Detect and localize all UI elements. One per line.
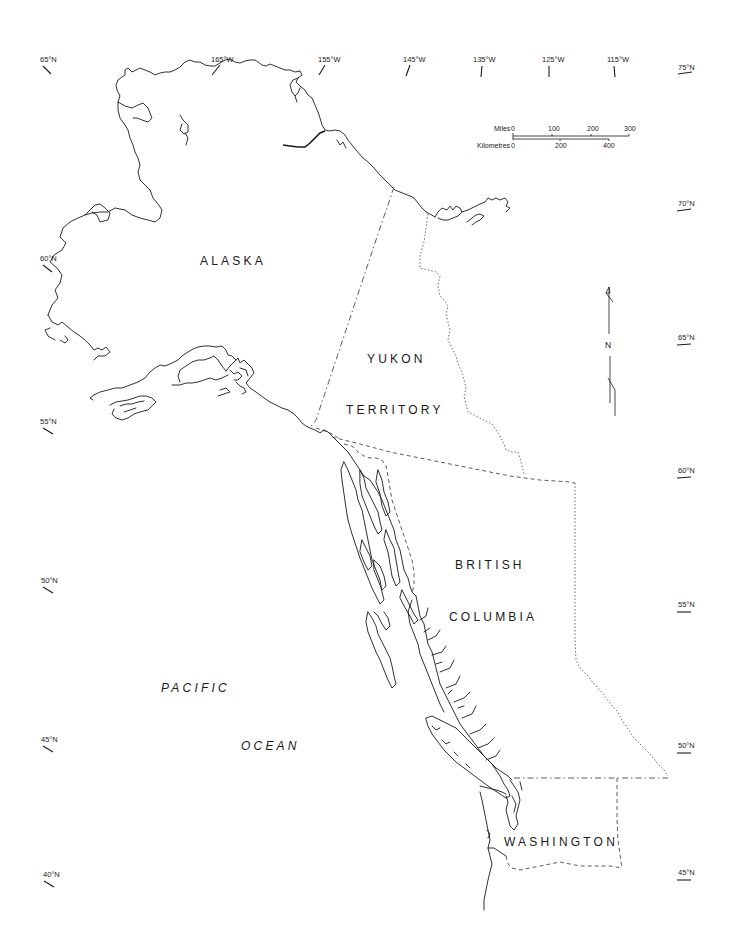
lon-tick: [406, 65, 410, 76]
label-yukon: YUKON: [367, 352, 426, 366]
north-arrow-shaft-bottom: [608, 356, 615, 416]
lat-tick: [43, 587, 53, 593]
border-panhandle: [316, 428, 414, 594]
svg-text:135°W: 135°W: [473, 55, 497, 64]
lat-right-45n: 45°N: [677, 868, 695, 880]
svg-text:145°W: 145°W: [403, 55, 427, 64]
border-60n: [332, 437, 575, 483]
lat-tick: [677, 344, 691, 345]
lat-tick: [43, 265, 52, 272]
lon-tick: [212, 65, 220, 75]
lat-right-55n: 55°N: [677, 600, 695, 612]
latitude-ticks-left: 65°N 60°N 55°N 50°N 45°N 40°N: [40, 55, 60, 887]
lon-115w: 115°W: [607, 55, 630, 77]
coastline-alaska-north: [48, 59, 510, 315]
lat-tick: [44, 881, 54, 887]
region-labels: ALASKA YUKON TERRITORY BRITISH COLUMBIA …: [200, 254, 618, 849]
svg-text:50°N: 50°N: [678, 741, 695, 750]
border-alaska-yukon: [310, 187, 394, 428]
label-territory: TERRITORY: [346, 403, 444, 417]
lon-155w: 155°W: [318, 55, 342, 75]
scale-bar-lines: [513, 133, 629, 141]
coastline-alaska-south: [90, 346, 324, 433]
lat-right-50n: 50°N: [677, 741, 695, 753]
border-yukon-nwt: [420, 214, 524, 474]
svg-text:55°N: 55°N: [678, 600, 695, 609]
map-canvas: 165°W 155°W 145°W 135°W 125°W 115°W 65°N: [0, 0, 732, 952]
svg-text:40°N: 40°N: [43, 870, 60, 879]
svg-text:45°N: 45°N: [678, 868, 695, 877]
lon-tick: [319, 65, 325, 75]
lat-right-70n: 70°N: [677, 199, 695, 211]
svg-text:70°N: 70°N: [678, 199, 695, 208]
svg-text:125°W: 125°W: [542, 55, 566, 64]
water-labels: PACIFIC OCEAN: [161, 681, 300, 753]
label-columbia: COLUMBIA: [449, 610, 537, 624]
scale-km-tick: 0: [511, 142, 515, 149]
lat-tick: [43, 746, 53, 752]
lat-tick: [43, 428, 53, 434]
border-washington-oregon: [506, 856, 622, 870]
lat-right-75n: 75°N: [678, 63, 695, 74]
lon-145w: 145°W: [403, 55, 427, 76]
lat-left-45n: 45°N: [41, 735, 58, 752]
lon-135w: 135°W: [473, 55, 497, 77]
scale-km-tick: 400: [603, 142, 615, 149]
svg-text:65°N: 65°N: [40, 55, 57, 64]
lat-tick: [677, 209, 691, 211]
lat-left-40n: 40°N: [43, 870, 60, 887]
lon-125w: 125°W: [542, 55, 566, 77]
lat-tick: [678, 72, 692, 74]
lat-left-55n: 55°N: [40, 417, 57, 434]
svg-text:60°N: 60°N: [40, 254, 57, 263]
svg-text:60°N: 60°N: [678, 466, 695, 475]
lon-tick: [481, 66, 482, 77]
label-british: BRITISH: [455, 558, 525, 572]
borders: [310, 187, 668, 870]
svg-text:50°N: 50°N: [41, 576, 58, 585]
coastline-vancouver-island: [426, 716, 510, 798]
lat-right-60n: 60°N: [677, 466, 695, 478]
lon-165w: 165°W: [211, 55, 235, 75]
lon-tick: [614, 66, 615, 77]
svg-text:115°W: 115°W: [607, 55, 630, 64]
north-arrow: N: [605, 287, 615, 416]
label-pacific: PACIFIC: [161, 681, 230, 695]
svg-text:155°W: 155°W: [318, 55, 342, 64]
border-bc-alberta: [575, 483, 668, 776]
label-ocean: OCEAN: [241, 739, 300, 753]
latitude-ticks-right: 75°N 70°N 65°N 60°N 55°N 50°N 45°N: [677, 63, 695, 880]
coastline-alaska-west: [45, 315, 110, 360]
scale-miles-tick: 0: [511, 125, 515, 132]
border-washington-idaho: [617, 778, 622, 868]
scale-miles-label: Miles: [494, 125, 511, 132]
svg-text:55°N: 55°N: [40, 417, 57, 426]
lat-left-60n: 60°N: [40, 254, 57, 272]
svg-text:165°W: 165°W: [211, 55, 235, 64]
lat-tick: [43, 66, 51, 74]
scale-miles-tick: 200: [587, 125, 599, 132]
scale-km-tick: 200: [555, 142, 567, 149]
lat-tick: [677, 477, 691, 478]
scale-miles-tick: 100: [548, 125, 560, 132]
svg-text:45°N: 45°N: [41, 735, 58, 744]
svg-text:75°N: 75°N: [678, 63, 695, 72]
label-alaska: ALASKA: [200, 254, 266, 268]
north-arrow-head-icon: [606, 287, 613, 302]
svg-text:65°N: 65°N: [678, 333, 695, 342]
coastline-southeast-alaska-bc: [324, 430, 512, 780]
scale-bar: Miles 0 100 200 300 Kilometres 0 200 400: [477, 125, 636, 149]
lat-right-65n: 65°N: [677, 333, 695, 345]
scale-km-label: Kilometres: [477, 142, 511, 149]
lat-left-50n: 50°N: [41, 576, 58, 593]
north-arrow-label: N: [605, 340, 611, 350]
lat-left-65n: 65°N: [40, 55, 57, 74]
label-washington: WASHINGTON: [504, 835, 618, 849]
scale-miles-tick: 300: [624, 125, 636, 132]
